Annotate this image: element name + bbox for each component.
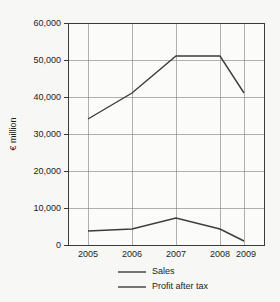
ytick-label-30000: 30,000 (33, 129, 61, 139)
xtick-label-2005: 2005 (78, 249, 98, 259)
chart-figure: 60,000 50,000 40,000 30,000 20,000 10,00… (0, 0, 280, 302)
ytick-label-50000: 50,000 (33, 55, 61, 65)
legend-label-sales: Sales (152, 266, 175, 276)
line-chart: 60,000 50,000 40,000 30,000 20,000 10,00… (0, 0, 280, 302)
y-axis-title: € million (8, 117, 18, 150)
ytick-label-20000: 20,000 (33, 166, 61, 176)
xtick-label-2008: 2008 (210, 249, 230, 259)
xtick-label-2007: 2007 (166, 249, 186, 259)
ytick-label-60000: 60,000 (33, 18, 61, 28)
xtick-label-2009: 2009 (236, 249, 256, 259)
xtick-label-2006: 2006 (122, 249, 142, 259)
ytick-label-40000: 40,000 (33, 92, 61, 102)
ytick-label-0: 0 (56, 240, 61, 250)
legend-label-profit-after-tax: Profit after tax (152, 281, 209, 291)
ytick-label-10000: 10,000 (33, 203, 61, 213)
